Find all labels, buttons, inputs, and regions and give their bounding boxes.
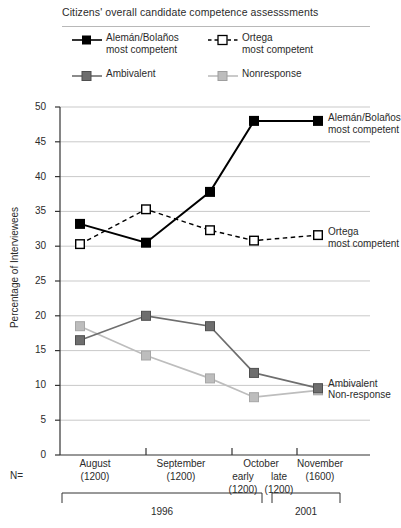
annotation-ambivalent: Ambivalent [328,378,377,390]
gridlines [60,107,370,420]
year-label-2001: 2001 [276,506,336,517]
x-group-october-late-n: (1200) [258,484,300,497]
annotation-aleman-line2: most competent [328,124,401,136]
x-group-october-month: October [228,458,294,471]
series-nonresponse [76,322,323,402]
n-equals-label: N= [10,470,23,481]
x-group-september-n: (1200) [146,471,216,484]
annotation-nonresponse: Non-response [328,389,391,401]
series-aleman [75,116,323,248]
annotation-aleman-line1: Alemán/Bolaños [328,112,401,124]
year-label-1996: 1996 [132,506,192,517]
x-group-november: November (1600) [288,458,352,483]
x-group-november-n: (1600) [288,471,352,484]
annotation-ortega: Ortega most competent [328,226,399,249]
x-group-august-month: August [66,458,124,471]
series-ambivalent [76,311,323,392]
x-group-september-month: September [146,458,216,471]
x-group-november-month: November [288,458,352,471]
x-group-august-n: (1200) [66,471,124,484]
x-axis [60,448,370,455]
x-group-august: August (1200) [66,458,124,483]
annotation-aleman: Alemán/Bolaños most competent [328,112,401,135]
y-axis [55,107,60,455]
x-group-september: September (1200) [146,458,216,483]
annotation-ortega-line1: Ortega [328,226,399,238]
x-group-october-label: October [228,458,294,471]
annotation-ortega-line2: most competent [328,238,399,250]
